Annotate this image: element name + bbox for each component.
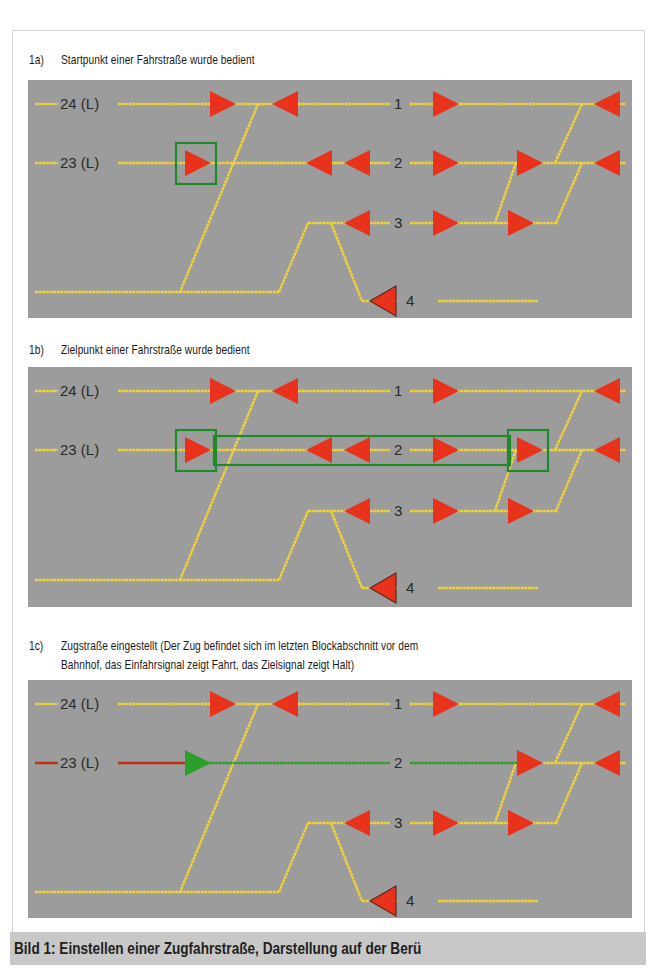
signal-left-icon[interactable] [272, 691, 298, 717]
caption-text: Bild 1: Einstellen einer Zugfahrstraße, … [14, 939, 421, 959]
track-diagram-1b: 24 (L) 23 (L) 1 2 3 4 [28, 367, 632, 607]
signal-right-icon[interactable] [185, 437, 211, 463]
section-number: 1b) [29, 342, 61, 357]
track-diagram-1c: 24 (L) 23 (L) 1 2 3 4 [28, 680, 632, 918]
section-number: 1a) [29, 52, 61, 67]
target-signal-halt-icon[interactable] [517, 750, 543, 776]
signal-left-icon[interactable] [594, 437, 620, 463]
signal-left-icon[interactable] [272, 378, 298, 404]
section-1a-title: 1a)Startpunkt einer Fahrstraße wurde bed… [29, 52, 255, 67]
track-layout: 24 (L) 23 (L) 1 2 3 4 [28, 680, 632, 918]
track-label-2: 2 [394, 441, 402, 458]
signal-left-icon[interactable] [344, 210, 370, 236]
section-text-line2: Bahnhof, das Einfahrsignal zeigt Fahrt, … [29, 655, 418, 674]
signal-right-icon[interactable] [517, 437, 543, 463]
signal-right-icon[interactable] [433, 150, 459, 176]
signal-left-icon[interactable] [306, 150, 332, 176]
track-label-2: 2 [394, 754, 402, 771]
signal-right-icon[interactable] [433, 810, 459, 836]
track-label-4: 4 [406, 892, 414, 909]
signal-right-icon[interactable] [433, 378, 459, 404]
figure-caption: Bild 1: Einstellen einer Zugfahrstraße, … [10, 932, 646, 965]
signal-right-icon[interactable] [433, 437, 459, 463]
track-layout: 24 (L) 23 (L) 1 2 3 4 [28, 367, 632, 607]
signal-left-icon[interactable] [344, 498, 370, 524]
track-diagram-1a: 24 (L) 23 (L) 1 2 3 4 [28, 80, 632, 318]
track-layout: 24 (L) 23 (L) 1 2 3 4 [28, 80, 632, 318]
signal-left-icon[interactable] [272, 91, 298, 117]
signal-left-icon[interactable] [344, 810, 370, 836]
section-text: Startpunkt einer Fahrstraße wurde bedien… [61, 52, 255, 67]
signal-left-icon[interactable] [344, 150, 370, 176]
track-label-24: 24 (L) [60, 382, 99, 399]
signal-left-icon[interactable] [594, 91, 620, 117]
section-text: Zielpunkt einer Fahrstraße wurde bedient [61, 342, 250, 357]
section-number: 1c) [29, 636, 61, 655]
track-label-24: 24 (L) [60, 95, 99, 112]
track-label-23: 23 (L) [60, 441, 99, 458]
signal-left-icon[interactable] [594, 691, 620, 717]
signal-right-icon[interactable] [517, 150, 543, 176]
track-label-24: 24 (L) [60, 695, 99, 712]
signal-right-icon[interactable] [210, 691, 236, 717]
track-label-23: 23 (L) [60, 154, 99, 171]
signal-right-icon[interactable] [433, 210, 459, 236]
signal-left-icon[interactable] [594, 378, 620, 404]
signal-left-icon[interactable] [370, 573, 396, 603]
entry-signal-fahrt-icon[interactable] [185, 750, 211, 776]
track-label-4: 4 [406, 292, 414, 309]
signal-right-icon[interactable] [508, 498, 534, 524]
track-label-4: 4 [406, 579, 414, 596]
track-label-23: 23 (L) [60, 754, 99, 771]
signal-left-icon[interactable] [306, 437, 332, 463]
section-1c-title: 1c)Zugstraße eingestellt (Der Zug befind… [29, 636, 418, 674]
track-label-2: 2 [394, 154, 402, 171]
signal-left-icon[interactable] [594, 750, 620, 776]
track-label-3: 3 [394, 814, 402, 831]
track-label-3: 3 [394, 214, 402, 231]
track-label-1: 1 [394, 695, 402, 712]
signal-right-icon[interactable] [508, 210, 534, 236]
track-label-3: 3 [394, 502, 402, 519]
signal-right-icon[interactable] [210, 378, 236, 404]
signal-right-icon[interactable] [508, 810, 534, 836]
section-text: Zugstraße eingestellt (Der Zug befindet … [61, 638, 418, 653]
signal-left-icon[interactable] [370, 286, 396, 316]
section-1b-title: 1b)Zielpunkt einer Fahrstraße wurde bedi… [29, 342, 250, 357]
signal-right-icon[interactable] [210, 91, 236, 117]
signal-right-icon[interactable] [433, 498, 459, 524]
signal-right-icon[interactable] [185, 150, 211, 176]
track-label-1: 1 [394, 95, 402, 112]
signal-right-icon[interactable] [433, 91, 459, 117]
signal-left-icon[interactable] [370, 886, 396, 916]
track-label-1: 1 [394, 382, 402, 399]
signal-left-icon[interactable] [594, 150, 620, 176]
signal-left-icon[interactable] [344, 437, 370, 463]
signal-right-icon[interactable] [433, 691, 459, 717]
